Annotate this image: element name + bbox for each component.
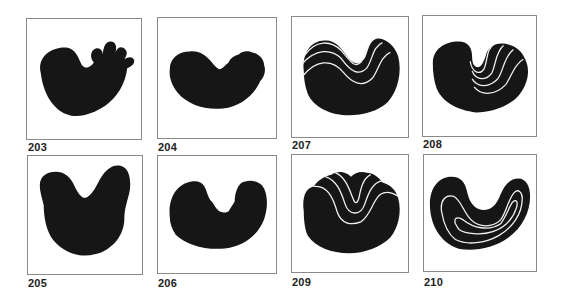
panel-label-210: 210 xyxy=(424,276,443,288)
panel-label-209: 209 xyxy=(292,276,311,288)
shape-207 xyxy=(292,17,408,137)
shape-203 xyxy=(27,19,141,139)
panel-208 xyxy=(422,15,537,137)
panel-206 xyxy=(157,155,277,274)
panel-label-204: 204 xyxy=(158,141,177,153)
shape-210 xyxy=(424,155,536,271)
panel-209 xyxy=(291,154,409,273)
panel-204 xyxy=(157,17,277,139)
shape-208 xyxy=(423,16,536,136)
shape-205 xyxy=(28,156,142,274)
panel-207 xyxy=(291,16,409,138)
panel-205 xyxy=(27,155,143,275)
shape-204 xyxy=(158,18,276,138)
panel-203 xyxy=(26,18,142,140)
shape-206 xyxy=(158,156,276,273)
panel-label-207: 207 xyxy=(292,139,311,151)
panel-label-205: 205 xyxy=(28,277,47,289)
panel-label-206: 206 xyxy=(158,277,177,289)
panel-label-203: 203 xyxy=(28,141,47,153)
panel-label-208: 208 xyxy=(423,138,442,150)
shape-209 xyxy=(292,155,408,272)
panel-210 xyxy=(423,154,537,272)
